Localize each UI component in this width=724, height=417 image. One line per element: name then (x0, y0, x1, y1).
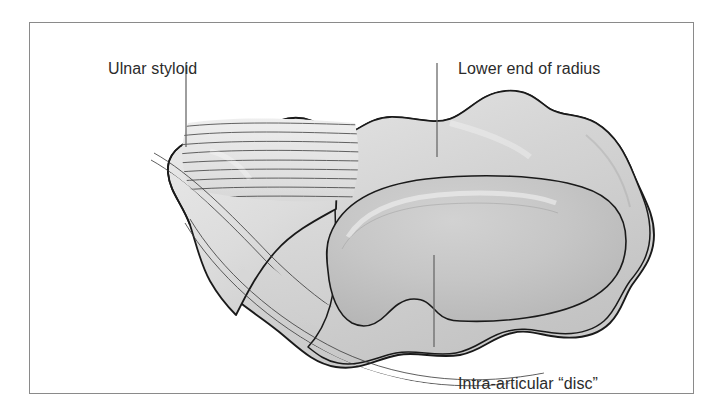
label-intra-articular-disc: Intra-articular “disc” (458, 375, 598, 393)
figure-page: Ulnar styloid Lower end of radius Intra-… (0, 0, 724, 417)
figure-frame: Ulnar styloid Lower end of radius Intra-… (29, 22, 694, 394)
label-ulnar-styloid: Ulnar styloid (108, 60, 197, 78)
intra-articular-disc (327, 176, 626, 326)
anatomical-illustration (30, 23, 693, 393)
label-lower-end-of-radius: Lower end of radius (458, 60, 600, 78)
disc-outline (327, 176, 626, 326)
